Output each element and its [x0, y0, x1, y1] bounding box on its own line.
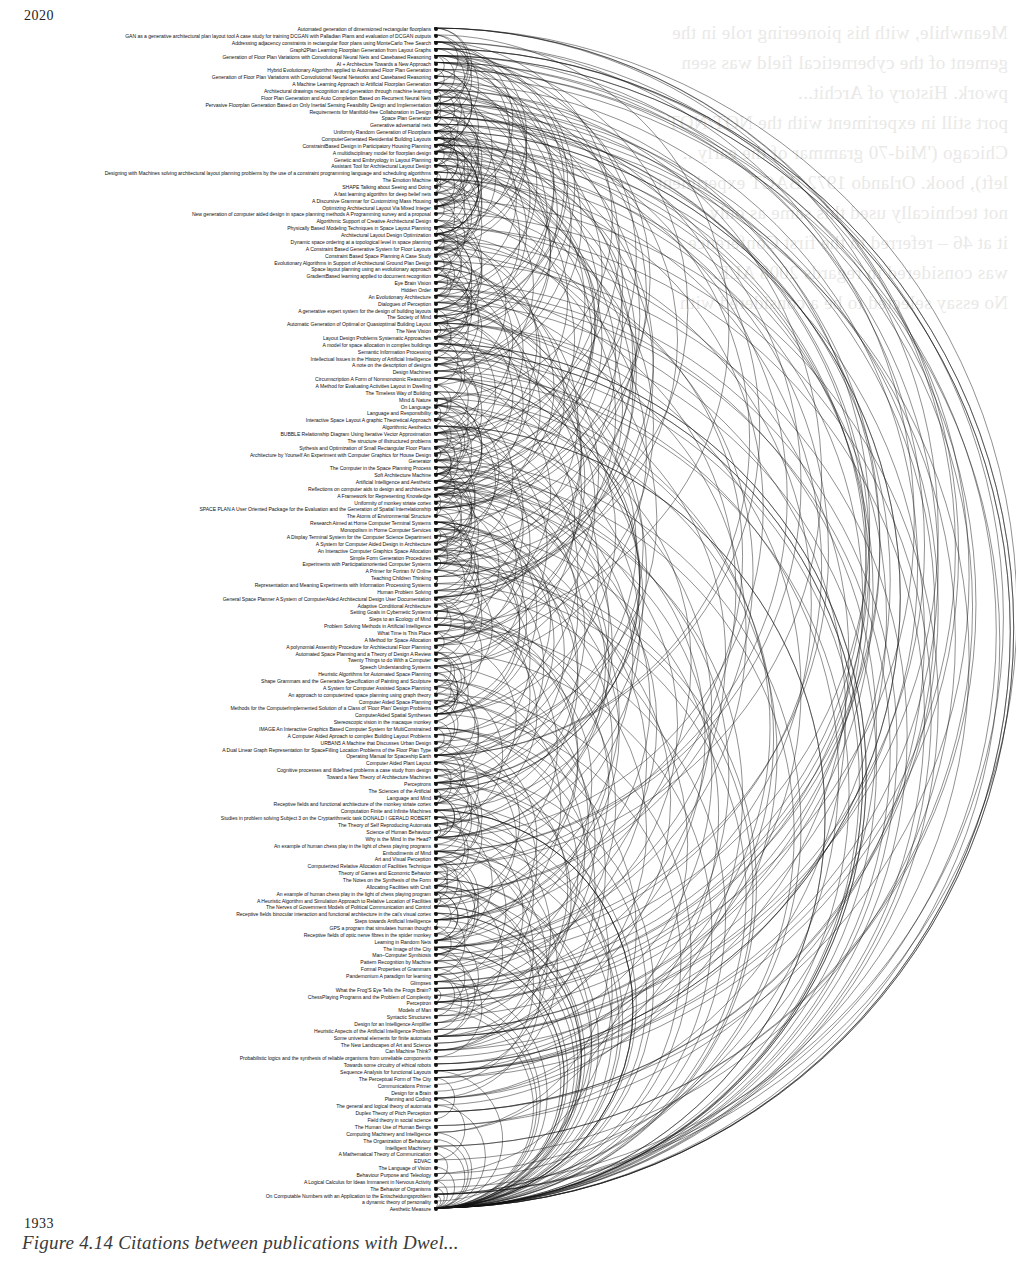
citation-arc — [434, 55, 1010, 1208]
citation-arc — [434, 378, 849, 1208]
citation-arc — [434, 103, 437, 110]
citation-arc — [434, 1201, 437, 1208]
citation-arc — [434, 687, 437, 694]
citation-arc — [434, 920, 437, 927]
citation-arc — [434, 426, 825, 1208]
citation-arc — [434, 200, 437, 207]
citation-arc — [434, 405, 599, 734]
citation-arc — [434, 604, 451, 638]
citation-arc — [434, 906, 585, 1208]
citation-arc — [434, 254, 444, 275]
citation-arc — [434, 172, 437, 179]
citation-arc — [434, 728, 444, 749]
citation-arc — [434, 172, 863, 1030]
citation-arc — [434, 762, 537, 968]
citation-arc — [434, 227, 444, 248]
citation-arc — [434, 563, 612, 920]
citation-arc — [434, 179, 437, 186]
citation-arc — [434, 577, 437, 584]
citation-arc — [434, 419, 451, 453]
citation-arc — [434, 522, 578, 810]
citation-arc — [434, 28, 472, 103]
citation-arc — [434, 426, 825, 1208]
citation-arc — [434, 611, 437, 618]
citation-arc — [434, 927, 451, 961]
citation-arc — [434, 508, 437, 515]
citation-arc — [434, 467, 437, 474]
citation-arc — [434, 213, 931, 1208]
citation-arc — [434, 309, 581, 604]
citation-arc — [434, 200, 444, 221]
citation-arc — [434, 103, 880, 995]
citation-arc — [434, 55, 1010, 1208]
citation-arc — [434, 762, 451, 796]
citation-arc — [434, 398, 437, 405]
citation-arc — [434, 186, 437, 193]
citation-arc — [434, 131, 444, 152]
citation-arc — [434, 460, 451, 494]
citation-arc — [434, 920, 578, 1208]
citation-arc — [434, 234, 506, 378]
citation-arc — [434, 234, 444, 255]
citation-arc — [434, 49, 1014, 1208]
figure-canvas: Meanwhile, with his pioneering role in t… — [0, 0, 1016, 1266]
citation-arc — [434, 680, 561, 934]
citation-arc — [434, 721, 451, 755]
citation-arc — [434, 62, 938, 1070]
citation-arc — [434, 49, 1014, 1208]
citation-arc — [434, 55, 444, 76]
citation-arc — [434, 488, 609, 838]
citation-arc — [434, 632, 444, 653]
citation-arc — [434, 453, 437, 460]
figure-caption: Figure 4.14 Citations between publicatio… — [22, 1232, 459, 1254]
citation-arc — [434, 501, 499, 631]
citation-arc — [434, 625, 726, 1208]
citation-arc — [434, 927, 575, 1208]
citation-arc — [434, 309, 437, 316]
citation-arc — [434, 707, 437, 714]
citation-arc-layer — [0, 0, 1016, 1266]
citation-arc — [434, 69, 973, 1146]
citation-arc — [434, 145, 444, 166]
citation-arc — [434, 227, 437, 234]
citation-arc — [434, 69, 444, 90]
citation-arc — [434, 460, 801, 1194]
